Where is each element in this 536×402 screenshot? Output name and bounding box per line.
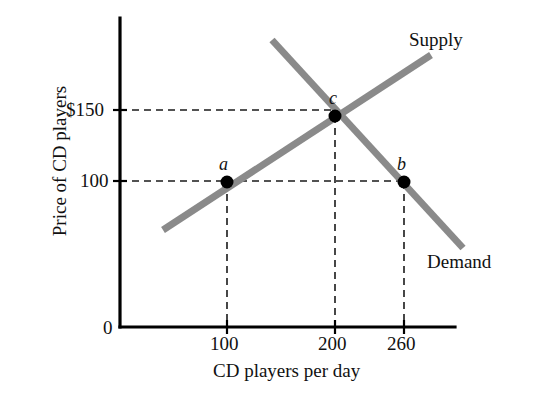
point-a-marker <box>221 176 234 189</box>
x-tick-label-100: 100 <box>210 334 239 353</box>
x-axis-title: CD players per day <box>213 361 360 380</box>
point-c-label: c <box>329 89 337 107</box>
axis-ticks <box>113 110 404 334</box>
point-b-label: b <box>397 155 406 173</box>
supply-demand-figure: Price of CD players $150 100 0 100 200 2… <box>0 0 536 402</box>
supply-curve <box>163 55 431 230</box>
y-tick-label-100: 100 <box>80 171 109 190</box>
origin-label: 0 <box>103 318 113 337</box>
y-axis-title: Price of CD players <box>49 41 71 281</box>
y-tick-label-150: $150 <box>66 100 104 119</box>
x-tick-label-260: 260 <box>387 334 416 353</box>
x-tick-label-200: 200 <box>318 334 347 353</box>
chart-canvas <box>0 0 536 402</box>
demand-curve-label: Demand <box>427 252 491 271</box>
point-a-label: a <box>219 155 228 173</box>
point-c-marker <box>329 110 342 123</box>
point-b-marker <box>398 176 411 189</box>
y-axis-title-container: Price of CD players <box>0 0 60 330</box>
guide-lines <box>120 110 404 327</box>
supply-curve-label: Supply <box>409 30 463 49</box>
